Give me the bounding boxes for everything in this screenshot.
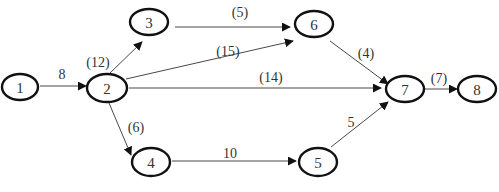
edge-label: (14) <box>259 70 283 86</box>
edge-2-3: (12) <box>86 42 142 73</box>
edge-2-7: (14) <box>129 70 381 88</box>
edge-label: (6) <box>128 120 145 136</box>
node-5: 5 <box>299 148 337 176</box>
edge-label: (15) <box>216 44 240 60</box>
edge-5-7: 5 <box>331 102 388 147</box>
node-label: 3 <box>145 15 153 31</box>
node-label: 7 <box>401 82 409 98</box>
node-8: 8 <box>458 76 496 102</box>
edge-label: 10 <box>223 146 237 161</box>
node-label: 8 <box>473 82 481 98</box>
arrow-icon <box>331 102 388 147</box>
node-3: 3 <box>130 9 168 35</box>
edge-label: (5) <box>232 5 249 21</box>
node-6: 6 <box>295 11 333 37</box>
node-label: 4 <box>147 155 155 171</box>
edge-label: (7) <box>431 71 448 87</box>
edge-7-8: (7) <box>425 71 457 89</box>
node-label: 1 <box>16 80 24 96</box>
edge-label: (12) <box>86 55 110 71</box>
node-2: 2 <box>87 74 127 102</box>
node-label: 6 <box>310 17 318 33</box>
edge-label: 8 <box>59 67 66 82</box>
edge-label: 5 <box>348 115 355 130</box>
node-label: 2 <box>103 81 111 97</box>
arrow-icon <box>110 42 142 73</box>
edge-3-6: (5) <box>175 5 290 27</box>
node-1: 1 <box>2 74 38 100</box>
network-diagram: 8(12)(5)(15)(14)(4)(7)(6)105 12367845 <box>0 0 499 192</box>
edge-6-7: (4) <box>330 41 388 84</box>
edge-label: (4) <box>358 46 375 62</box>
edge-1-2: 8 <box>40 67 86 86</box>
node-4: 4 <box>132 148 170 176</box>
node-label: 5 <box>314 155 322 171</box>
edge-2-4: (6) <box>109 103 144 155</box>
node-7: 7 <box>386 76 424 102</box>
edge-4-5: 10 <box>172 146 296 161</box>
nodes-layer: 12367845 <box>2 9 496 176</box>
